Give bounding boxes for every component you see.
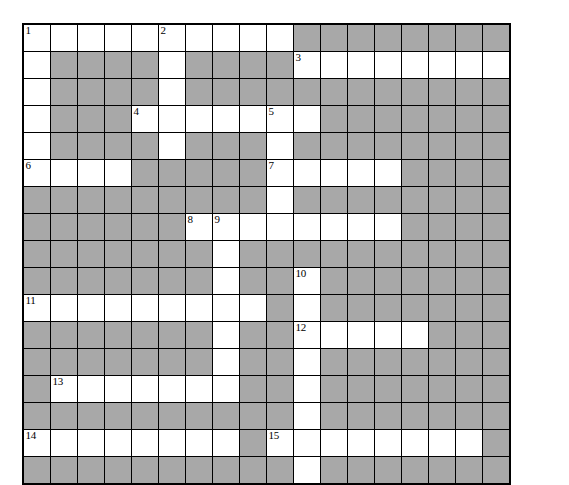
- crossword-cell-empty[interactable]: [321, 430, 348, 457]
- crossword-cell-empty[interactable]: [375, 214, 402, 241]
- crossword-cell-empty[interactable]: [321, 322, 348, 349]
- crossword-cell-empty[interactable]: [159, 133, 186, 160]
- crossword-cell-empty[interactable]: [105, 24, 132, 52]
- crossword-cell-empty[interactable]: [23, 52, 51, 79]
- crossword-cell-empty[interactable]: [105, 430, 132, 457]
- crossword-cell-empty[interactable]: [51, 160, 78, 187]
- crossword-cell-empty[interactable]: 9: [213, 214, 240, 241]
- crossword-cell-empty[interactable]: [402, 430, 429, 457]
- crossword-cell-empty[interactable]: [267, 214, 294, 241]
- crossword-cell-empty[interactable]: 15: [267, 430, 294, 457]
- crossword-cell-empty[interactable]: [321, 214, 348, 241]
- crossword-cell-empty[interactable]: [186, 106, 213, 133]
- crossword-cell-empty[interactable]: 13: [51, 376, 78, 403]
- crossword-cell-empty[interactable]: [375, 52, 402, 79]
- crossword-cell-empty[interactable]: [159, 79, 186, 106]
- crossword-cell-empty[interactable]: [240, 106, 267, 133]
- crossword-cell-empty[interactable]: [186, 295, 213, 322]
- crossword-cell-empty[interactable]: [186, 376, 213, 403]
- crossword-cell-empty[interactable]: [456, 52, 483, 79]
- crossword-cell-empty[interactable]: [348, 160, 375, 187]
- crossword-cell-empty[interactable]: [294, 376, 321, 403]
- crossword-cell-empty[interactable]: 10: [294, 268, 321, 295]
- crossword-cell-empty[interactable]: 14: [23, 430, 51, 457]
- crossword-cell-empty[interactable]: [23, 79, 51, 106]
- crossword-cell-empty[interactable]: [294, 430, 321, 457]
- crossword-cell-empty[interactable]: 3: [294, 52, 321, 79]
- crossword-cell-empty[interactable]: 7: [267, 160, 294, 187]
- crossword-cell-empty[interactable]: [159, 430, 186, 457]
- crossword-cell-empty[interactable]: [294, 403, 321, 430]
- crossword-cell-empty[interactable]: [51, 430, 78, 457]
- crossword-cell-empty[interactable]: [294, 349, 321, 376]
- crossword-cell-empty[interactable]: [267, 133, 294, 160]
- crossword-cell-empty[interactable]: [159, 106, 186, 133]
- crossword-cell-empty[interactable]: [105, 160, 132, 187]
- crossword-row: 11: [23, 295, 510, 322]
- crossword-cell-empty[interactable]: [240, 214, 267, 241]
- crossword-cell-empty[interactable]: [429, 430, 456, 457]
- crossword-cell-empty[interactable]: [132, 430, 159, 457]
- crossword-cell-empty[interactable]: [267, 24, 294, 52]
- crossword-cell-empty[interactable]: [51, 24, 78, 52]
- crossword-cell-empty[interactable]: 8: [186, 214, 213, 241]
- crossword-cell-empty[interactable]: [213, 268, 240, 295]
- crossword-cell-empty[interactable]: [348, 430, 375, 457]
- crossword-cell-empty[interactable]: [213, 24, 240, 52]
- crossword-cell-empty[interactable]: [132, 24, 159, 52]
- crossword-cell-empty[interactable]: [132, 295, 159, 322]
- crossword-cell-empty[interactable]: [186, 24, 213, 52]
- crossword-cell-empty[interactable]: [375, 160, 402, 187]
- crossword-cell-empty[interactable]: [375, 430, 402, 457]
- crossword-cell-empty[interactable]: [51, 295, 78, 322]
- crossword-cell-empty[interactable]: [402, 322, 429, 349]
- crossword-cell-empty[interactable]: [213, 430, 240, 457]
- crossword-cell-empty[interactable]: [294, 295, 321, 322]
- crossword-cell-empty[interactable]: [78, 430, 105, 457]
- crossword-cell-empty[interactable]: [159, 295, 186, 322]
- crossword-cell-empty[interactable]: 11: [23, 295, 51, 322]
- crossword-cell-empty[interactable]: [240, 295, 267, 322]
- crossword-cell-empty[interactable]: [348, 52, 375, 79]
- crossword-cell-empty[interactable]: [294, 457, 321, 485]
- crossword-cell-empty[interactable]: [321, 160, 348, 187]
- crossword-cell-empty[interactable]: 1: [23, 24, 51, 52]
- crossword-cell-empty[interactable]: 6: [23, 160, 51, 187]
- crossword-cell-empty[interactable]: [105, 295, 132, 322]
- crossword-cell-empty[interactable]: [23, 133, 51, 160]
- crossword-cell-empty[interactable]: [402, 52, 429, 79]
- crossword-cell-empty[interactable]: [78, 295, 105, 322]
- crossword-cell-empty[interactable]: 5: [267, 106, 294, 133]
- crossword-cell-empty[interactable]: [213, 349, 240, 376]
- crossword-grid[interactable]: 123456789101112131415: [22, 23, 511, 485]
- crossword-cell-empty[interactable]: [321, 52, 348, 79]
- crossword-cell-empty[interactable]: [294, 160, 321, 187]
- crossword-cell-empty[interactable]: [240, 24, 267, 52]
- crossword-cell-empty[interactable]: [132, 376, 159, 403]
- crossword-cell-empty[interactable]: 4: [132, 106, 159, 133]
- crossword-cell-empty[interactable]: [294, 214, 321, 241]
- crossword-cell-empty[interactable]: [78, 24, 105, 52]
- crossword-cell-empty[interactable]: [159, 376, 186, 403]
- crossword-cell-empty[interactable]: [294, 106, 321, 133]
- crossword-cell-empty[interactable]: [375, 322, 402, 349]
- crossword-cell-empty[interactable]: 12: [294, 322, 321, 349]
- crossword-cell-empty[interactable]: 2: [159, 24, 186, 52]
- crossword-cell-empty[interactable]: [213, 295, 240, 322]
- crossword-cell-empty[interactable]: [213, 106, 240, 133]
- crossword-cell-empty[interactable]: [78, 160, 105, 187]
- crossword-cell-empty[interactable]: [105, 376, 132, 403]
- crossword-cell-empty[interactable]: [483, 52, 511, 79]
- crossword-cell-empty[interactable]: [348, 214, 375, 241]
- crossword-cell-empty[interactable]: [348, 322, 375, 349]
- crossword-cell-empty[interactable]: [213, 376, 240, 403]
- crossword-cell-empty[interactable]: [23, 106, 51, 133]
- crossword-cell-empty[interactable]: [186, 430, 213, 457]
- crossword-cell-empty[interactable]: [456, 430, 483, 457]
- crossword-cell-empty[interactable]: [78, 376, 105, 403]
- crossword-cell-empty[interactable]: [267, 187, 294, 214]
- crossword-cell-empty[interactable]: [213, 322, 240, 349]
- crossword-cell-empty[interactable]: [429, 52, 456, 79]
- crossword-cell-empty[interactable]: [159, 52, 186, 79]
- crossword-cell-empty[interactable]: [213, 241, 240, 268]
